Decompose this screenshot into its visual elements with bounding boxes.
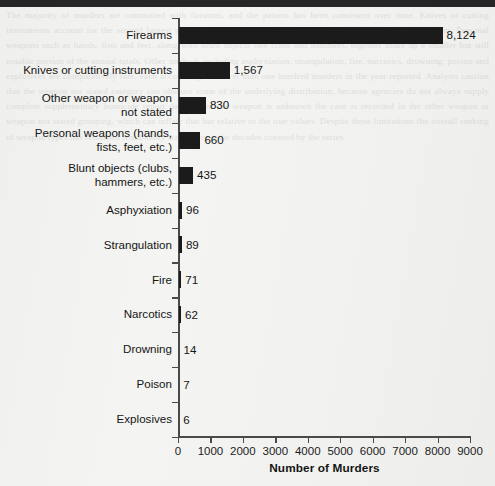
- bar-value-label: 89: [186, 238, 199, 251]
- y-axis-tick: [172, 193, 178, 194]
- category-label: Strangulation: [0, 238, 172, 252]
- y-axis-tick: [172, 88, 178, 89]
- y-axis-tick: [172, 262, 178, 263]
- y-axis-line: [178, 18, 180, 437]
- bar-value-label: 830: [210, 98, 229, 111]
- category-label: Other weapon or weapon not stated: [0, 91, 172, 118]
- bar-value-label: 62: [185, 308, 198, 321]
- x-axis-tick-label: 9000: [457, 445, 483, 457]
- category-label: Narcotics: [0, 307, 172, 321]
- x-axis-tick: [373, 437, 374, 443]
- x-axis-tick: [470, 437, 471, 443]
- bar-value-label: 435: [197, 168, 216, 181]
- bar-chart: 0100020003000400050006000700080009000 Fi…: [0, 0, 495, 486]
- y-axis-tick: [172, 228, 178, 229]
- y-axis-tick: [172, 402, 178, 403]
- x-axis-tick-label: 5000: [327, 445, 353, 457]
- x-axis-tick-label: 3000: [263, 445, 289, 457]
- bar: [179, 236, 182, 253]
- chart-page: The majority of murders are committed wi…: [0, 0, 495, 486]
- bar: [179, 62, 230, 79]
- x-axis-tick: [308, 437, 309, 443]
- y-axis-tick: [172, 367, 178, 368]
- bar-value-label: 1,567: [234, 63, 263, 76]
- x-axis-tick: [340, 437, 341, 443]
- category-label: Knives or cutting instruments: [0, 63, 172, 77]
- bar-value-label: 6: [183, 413, 189, 426]
- y-axis-tick: [172, 53, 178, 54]
- category-label: Poison: [0, 377, 172, 391]
- x-axis-tick-label: 4000: [295, 445, 321, 457]
- bar-value-label: 71: [185, 273, 198, 286]
- bar-value-label: 8,124: [447, 28, 476, 41]
- x-axis-tick-label: 0: [175, 445, 181, 457]
- bar: [179, 202, 182, 219]
- x-axis-tick-label: 2000: [230, 445, 256, 457]
- x-axis-tick-label: 8000: [425, 445, 451, 457]
- y-axis-tick: [172, 158, 178, 159]
- x-axis-tick: [178, 437, 179, 443]
- category-label: Personal weapons (hands, fists, feet, et…: [0, 126, 172, 153]
- category-label: Drowning: [0, 342, 172, 356]
- bar: [179, 97, 206, 114]
- bar-value-label: 660: [204, 133, 223, 146]
- y-axis-tick: [172, 18, 178, 19]
- category-label: Fire: [0, 273, 172, 287]
- bar: [179, 306, 181, 323]
- y-axis-tick: [172, 123, 178, 124]
- bar: [179, 271, 181, 288]
- category-label: Firearms: [0, 28, 172, 42]
- bar-value-label: 7: [183, 378, 189, 391]
- x-axis-tick: [405, 437, 406, 443]
- x-axis-tick: [210, 437, 211, 443]
- bar: [179, 132, 200, 149]
- bar-value-label: 96: [186, 203, 199, 216]
- x-axis-tick-label: 1000: [198, 445, 224, 457]
- category-label: Explosives: [0, 412, 172, 426]
- bar: [179, 167, 193, 184]
- x-axis-tick: [275, 437, 276, 443]
- y-axis-tick: [172, 297, 178, 298]
- x-axis-tick: [243, 437, 244, 443]
- y-axis-tick: [172, 332, 178, 333]
- category-label: Asphyxiation: [0, 203, 172, 217]
- bar: [179, 27, 443, 44]
- bar-value-label: 14: [183, 343, 196, 356]
- x-axis-tick: [438, 437, 439, 443]
- x-axis-tick-label: 6000: [360, 445, 386, 457]
- category-label: Blunt objects (clubs, hammers, etc.): [0, 161, 172, 188]
- x-axis-tick-label: 7000: [392, 445, 418, 457]
- x-axis-title: Number of Murders: [178, 461, 471, 475]
- x-axis-line: [178, 436, 471, 438]
